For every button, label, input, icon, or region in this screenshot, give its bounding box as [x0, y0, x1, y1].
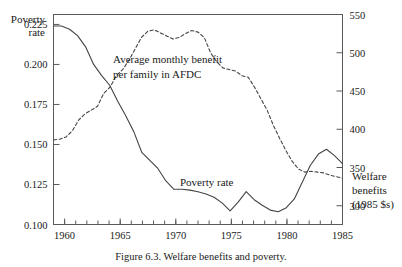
x-tick-label: 1980 — [276, 230, 297, 241]
y-tick-label: 0.200 — [24, 59, 48, 70]
y-tick-label: 0.175 — [24, 99, 48, 110]
x-tick-label: 1970 — [165, 230, 186, 241]
y-axis-left-tick-labels: 0.1000.1250.1500.1750.2000.225 — [24, 19, 48, 230]
benefit-annotation-line1: Average monthly benefit — [113, 53, 222, 65]
figure-container: 196019651970197519801985 0.1000.1250.150… — [0, 0, 402, 267]
y-tick-label: 0.150 — [24, 139, 48, 150]
y2-tick-label: 400 — [350, 124, 366, 135]
plot-frame — [54, 15, 343, 225]
x-axis-tick-labels: 196019651970197519801985 — [54, 230, 353, 241]
x-tick-label: 1975 — [221, 230, 242, 241]
x-axis-ticks — [54, 219, 343, 225]
benefit-annotation-line2: per family in AFDC — [113, 68, 201, 80]
x-tick-label: 1960 — [54, 230, 75, 241]
y2-tick-label: 450 — [350, 86, 366, 97]
y2-tick-label: 500 — [350, 48, 366, 59]
x-tick-label: 1965 — [110, 230, 131, 241]
y-axis-left-ticks — [54, 24, 60, 224]
right-axis-title-line2: benefits — [352, 184, 387, 196]
right-axis-title-line3: (1985 $s) — [352, 198, 394, 211]
chart-svg: 196019651970197519801985 0.1000.1250.150… — [0, 0, 402, 267]
figure-caption: Figure 6.3. Welfare benefits and poverty… — [115, 251, 286, 262]
right-axis-title-line1: Welfare — [352, 170, 387, 182]
y-tick-label: 0.100 — [24, 220, 48, 231]
x-tick-label: 1985 — [332, 230, 353, 241]
y-tick-label: 0.125 — [24, 179, 48, 190]
y2-tick-label: 550 — [350, 10, 366, 21]
poverty-annotation: Poverty rate — [180, 176, 234, 188]
left-axis-title-line1: Poverty — [11, 13, 46, 25]
left-axis-title-line2: rate — [29, 26, 46, 38]
